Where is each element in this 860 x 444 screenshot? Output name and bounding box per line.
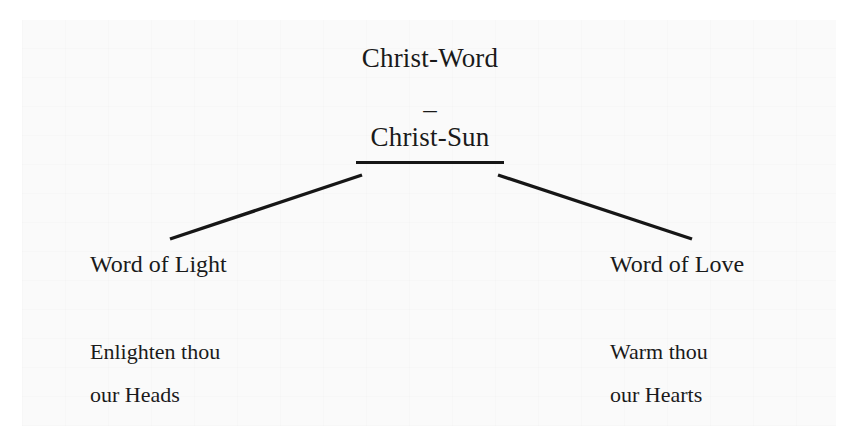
diagram-canvas: Christ-Word – Christ-Sun Word of Light W… bbox=[0, 0, 860, 444]
node-label-christ-word: Christ-Word bbox=[0, 45, 860, 72]
node-label-christ-sun: Christ-Sun bbox=[0, 124, 860, 151]
petition-block-left: Enlighten thou our Heads bbox=[90, 330, 220, 416]
christ-sun-underline-rule bbox=[356, 161, 504, 164]
petition-right-line-2: our Hearts bbox=[610, 373, 708, 416]
petition-block-right: Warm thou our Hearts bbox=[610, 330, 708, 416]
petition-right-line-1: Warm thou bbox=[610, 330, 708, 373]
node-label-word-of-love: Word of Love bbox=[610, 252, 744, 276]
connector-dash: – bbox=[0, 96, 860, 123]
node-label-word-of-light: Word of Light bbox=[90, 252, 227, 276]
petition-left-line-2: our Heads bbox=[90, 373, 220, 416]
petition-left-line-1: Enlighten thou bbox=[90, 330, 220, 373]
